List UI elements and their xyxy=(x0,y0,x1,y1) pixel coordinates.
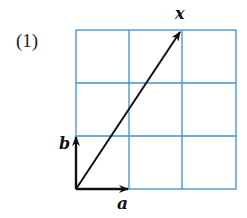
grid xyxy=(76,30,236,189)
vector-x-label: x xyxy=(175,4,185,23)
vector-a-label: a xyxy=(117,193,128,213)
vector-grid-diagram xyxy=(0,0,247,218)
vector-x-arrow xyxy=(76,32,180,189)
vector-b-label: b xyxy=(59,134,70,153)
